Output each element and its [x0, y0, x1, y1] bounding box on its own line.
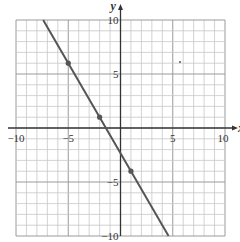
x-tick-label: 10 [218, 132, 230, 144]
data-point [128, 169, 133, 174]
y-tick-label: 5 [113, 68, 119, 80]
coordinate-plane: −10−5510105−5−10 x y [0, 0, 240, 242]
y-tick-label: −5 [107, 176, 119, 188]
data-point [97, 115, 102, 120]
axes [8, 4, 238, 236]
x-tick-label: 5 [170, 132, 176, 144]
y-tick-label: 10 [108, 14, 120, 26]
x-tick-label: −5 [62, 132, 74, 144]
data-point [66, 61, 71, 66]
x-tick-label: −10 [7, 132, 25, 144]
y-axis-label: y [109, 0, 117, 13]
stray-mark [179, 61, 181, 63]
x-axis-label: x [237, 121, 240, 135]
y-tick-label: −10 [101, 230, 119, 242]
y-axis-arrow-icon [118, 4, 123, 10]
